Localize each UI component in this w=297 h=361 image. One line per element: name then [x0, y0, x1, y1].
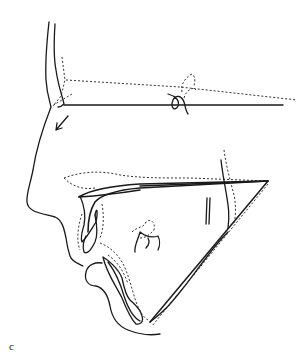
molar-crown [135, 232, 160, 252]
profile-tracing-drawing [0, 0, 297, 361]
canal-line-1 [206, 198, 207, 224]
dotted-palatal-outline [64, 172, 268, 181]
frontal-bone-outline [54, 24, 64, 107]
sella-dotted [182, 74, 196, 98]
sella-turcica [168, 94, 188, 114]
canal-line-2 [209, 198, 210, 224]
dotted-lower-incisor [100, 243, 148, 320]
lower-incisor-inner [108, 262, 140, 321]
nasion-arrow [56, 116, 68, 130]
dotted-palatal-lower [64, 178, 95, 189]
molar-dotted [132, 220, 154, 238]
maxilla-outline [79, 181, 268, 232]
mandibular-plane-line [150, 181, 268, 322]
panel-label: c [9, 340, 14, 352]
